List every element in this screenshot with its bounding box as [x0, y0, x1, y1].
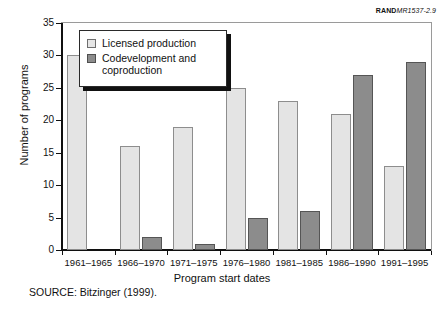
x-tick-mark — [167, 251, 168, 255]
rand-publication-code: RANDMR1537-2.9 — [376, 7, 436, 14]
x-tick-label: 1966–1970 — [115, 257, 168, 268]
x-tick-label: 1976–1980 — [220, 257, 273, 268]
y-tick-label: 35 — [14, 18, 54, 28]
bar-codevelopment — [406, 62, 426, 250]
legend-swatch-icon-codevelopment — [87, 54, 96, 63]
legend-item-licensed-production: Licensed production — [87, 37, 219, 49]
x-tick-label: 1991–1995 — [378, 257, 431, 268]
bar-codevelopment — [353, 75, 373, 250]
y-tick-label: 15 — [14, 148, 54, 158]
y-tick-label: 25 — [14, 83, 54, 93]
bar-licensed — [226, 88, 246, 250]
y-tick-mark — [56, 23, 61, 24]
legend-item-codevelopment: Codevelopment and coproduction — [87, 52, 219, 76]
source-note: SOURCE: Bitzinger (1999). — [29, 286, 157, 298]
legend-swatch-icon-licensed — [87, 39, 96, 48]
legend-label-codevelopment: Codevelopment and coproduction — [102, 52, 219, 76]
x-tick-mark — [431, 251, 432, 255]
y-tick-label: 20 — [14, 115, 54, 125]
chart-legend: Licensed production Codevelopment and co… — [79, 30, 227, 87]
x-tick-mark — [62, 251, 63, 255]
legend-label-licensed: Licensed production — [102, 37, 196, 49]
x-tick-label: 1981–1985 — [273, 257, 326, 268]
x-tick-label: 1971–1975 — [167, 257, 220, 268]
y-tick-mark — [56, 153, 61, 154]
y-tick-label: 5 — [14, 213, 54, 223]
y-tick-label: 0 — [14, 245, 54, 255]
bar-codevelopment — [300, 211, 320, 250]
bar-codevelopment — [142, 237, 162, 250]
bar-licensed — [173, 127, 193, 250]
figure-bar-chart: RANDMR1537-2.9 Number of programs 051015… — [0, 0, 444, 310]
plot-frame-right — [431, 22, 432, 251]
x-tick-label: 1961–1965 — [62, 257, 115, 268]
bar-licensed — [120, 146, 140, 250]
y-tick-label: 10 — [14, 180, 54, 190]
bar-licensed — [278, 101, 298, 250]
bar-codevelopment — [195, 244, 215, 250]
x-tick-label: 1986–1990 — [326, 257, 379, 268]
y-tick-label: 30 — [14, 50, 54, 60]
y-tick-mark — [56, 120, 61, 121]
rand-report-number: MR1537-2.9 — [396, 7, 436, 14]
y-tick-mark — [56, 250, 61, 251]
x-tick-mark — [220, 251, 221, 255]
y-tick-mark — [56, 185, 61, 186]
rand-label: RAND — [376, 7, 397, 14]
y-tick-mark — [56, 55, 61, 56]
x-tick-mark — [115, 251, 116, 255]
bar-codevelopment — [248, 218, 268, 250]
bar-licensed — [384, 166, 404, 250]
x-tick-mark — [273, 251, 274, 255]
x-axis-title: Program start dates — [0, 272, 444, 284]
y-tick-mark — [56, 218, 61, 219]
y-tick-mark — [56, 88, 61, 89]
bar-licensed — [331, 114, 351, 250]
x-tick-mark — [326, 251, 327, 255]
x-tick-mark — [378, 251, 379, 255]
